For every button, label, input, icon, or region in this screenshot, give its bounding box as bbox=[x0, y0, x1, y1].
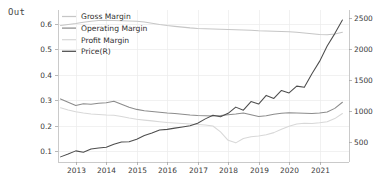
x-tick-label: 2018 bbox=[219, 166, 238, 175]
left-tick-label: 0.3 bbox=[40, 96, 52, 105]
x-tick-label: 2021 bbox=[311, 166, 330, 175]
x-tick-label: 2016 bbox=[158, 166, 177, 175]
x-tick-label: 2014 bbox=[97, 166, 116, 175]
chart-figure: 201320142015201620172018201920202021 0.1… bbox=[0, 0, 392, 189]
x-tick-label: 2013 bbox=[67, 166, 86, 175]
left-tick-label: 0.2 bbox=[40, 122, 52, 131]
series-line bbox=[61, 99, 343, 117]
legend-label: Profit Margin bbox=[81, 36, 129, 45]
right-tick-label: 1000 bbox=[354, 107, 373, 116]
right-tick-label: 1500 bbox=[354, 76, 373, 85]
x-tick-label: 2019 bbox=[250, 166, 269, 175]
left-tick-label: 0.6 bbox=[40, 20, 52, 29]
right-tick-label: 2500 bbox=[354, 14, 373, 23]
line-chart-canvas: 201320142015201620172018201920202021 0.1… bbox=[0, 0, 392, 189]
right-tick-label: 2000 bbox=[354, 45, 373, 54]
left-tick-label: 0.4 bbox=[40, 71, 52, 80]
legend-label: Price(R) bbox=[81, 47, 111, 56]
legend-label: Operating Margin bbox=[81, 24, 148, 33]
chart-x-tick-labels: 201320142015201620172018201920202021 bbox=[67, 166, 330, 175]
notebook-output-cell: Out 201320142015201620172018201920202021… bbox=[0, 0, 392, 189]
x-tick-label: 2017 bbox=[189, 166, 208, 175]
chart-left-tick-labels: 0.10.20.30.40.50.6 bbox=[40, 20, 52, 156]
legend-label: Gross Margin bbox=[81, 12, 131, 21]
left-tick-label: 0.1 bbox=[40, 147, 52, 156]
left-tick-label: 0.5 bbox=[40, 45, 52, 54]
right-tick-label: 500 bbox=[354, 138, 368, 147]
x-tick-label: 2015 bbox=[128, 166, 147, 175]
chart-right-tick-labels: 5001000150020002500 bbox=[354, 14, 373, 147]
x-tick-label: 2020 bbox=[280, 166, 299, 175]
